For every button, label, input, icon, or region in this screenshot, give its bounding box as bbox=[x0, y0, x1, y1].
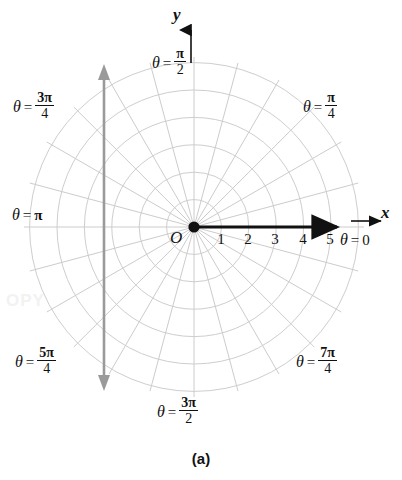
theta-symbol: θ bbox=[303, 99, 311, 115]
theta-symbol: θ bbox=[340, 232, 348, 248]
fraction-denominator: 2 bbox=[185, 411, 192, 426]
origin-dot bbox=[188, 221, 199, 232]
angle-value-pi: π bbox=[34, 208, 42, 223]
fraction-3pi-over-4: 3π 4 bbox=[35, 91, 54, 122]
equals-sign: = bbox=[307, 355, 315, 370]
fraction-denominator: 2 bbox=[177, 62, 184, 77]
fraction-denominator: 4 bbox=[328, 106, 335, 121]
fraction-denominator: 4 bbox=[324, 361, 331, 376]
fraction-pi-over-4: π 4 bbox=[325, 91, 337, 122]
fraction-numerator: 7π bbox=[318, 346, 337, 361]
fraction-5pi-over-4: 5π 4 bbox=[37, 346, 56, 377]
theta-symbol: θ bbox=[12, 207, 20, 223]
angle-label-theta-7pi-4: θ = 7π 4 bbox=[296, 347, 337, 378]
origin-label: O bbox=[170, 228, 182, 248]
angle-label-theta-pi-4: θ = π 4 bbox=[303, 92, 337, 123]
radial-tick-4: 4 bbox=[296, 231, 310, 248]
fraction-numerator: 3π bbox=[179, 396, 198, 411]
fraction-numerator: 5π bbox=[37, 346, 56, 361]
angle-label-theta-5pi-4: θ = 5π 4 bbox=[15, 347, 56, 378]
angle-label-theta-pi-2: θ = π 2 bbox=[152, 48, 186, 79]
equals-sign: = bbox=[351, 233, 359, 248]
figure-caption: (a) bbox=[0, 450, 402, 467]
fraction-pi-over-2: π 2 bbox=[174, 47, 186, 78]
equals-sign: = bbox=[314, 100, 322, 115]
y-axis-letter: y bbox=[173, 5, 181, 25]
radial-tick-5: 5 bbox=[323, 231, 337, 248]
equals-sign: = bbox=[168, 405, 176, 420]
fraction-numerator: π bbox=[174, 47, 186, 62]
polar-coordinate-figure: OPY bbox=[0, 0, 402, 480]
angle-label-theta-3pi-4: θ = 3π 4 bbox=[13, 92, 54, 123]
theta-symbol: θ bbox=[13, 99, 21, 115]
fraction-3pi-over-2: 3π 2 bbox=[179, 396, 198, 427]
fraction-denominator: 4 bbox=[43, 361, 50, 376]
radial-tick-3: 3 bbox=[268, 231, 282, 248]
angle-label-theta-pi: θ = π bbox=[12, 207, 43, 223]
fraction-numerator: π bbox=[325, 91, 337, 106]
equals-sign: = bbox=[163, 56, 171, 71]
angle-label-theta-3pi-2: θ = 3π 2 bbox=[157, 397, 198, 428]
fraction-7pi-over-4: 7π 4 bbox=[318, 346, 337, 377]
angle-label-theta-0: θ = 0 bbox=[340, 232, 370, 248]
radial-tick-2: 2 bbox=[241, 231, 255, 248]
fraction-numerator: 3π bbox=[35, 91, 54, 106]
fraction-denominator: 4 bbox=[41, 106, 48, 121]
x-axis-letter: x bbox=[381, 203, 390, 223]
angle-value-zero: 0 bbox=[362, 233, 370, 248]
theta-symbol: θ bbox=[15, 354, 23, 370]
equals-sign: = bbox=[23, 208, 31, 223]
equals-sign: = bbox=[26, 355, 34, 370]
theta-symbol: θ bbox=[296, 354, 304, 370]
radial-tick-1: 1 bbox=[214, 231, 228, 248]
theta-symbol: θ bbox=[152, 55, 160, 71]
equals-sign: = bbox=[24, 100, 32, 115]
theta-symbol: θ bbox=[157, 404, 165, 420]
